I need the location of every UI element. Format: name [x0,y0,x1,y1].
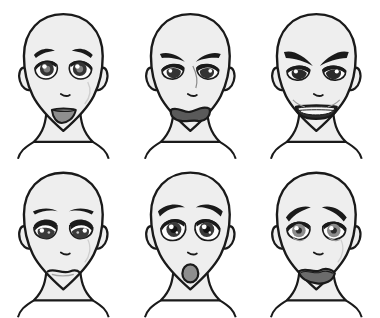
face-grid: Happy / Smiling [0,0,380,318]
face-drawing-sad [0,159,127,318]
face-cell-upset[interactable]: Upset / Grimacing [127,0,254,159]
shoulder-lines [271,142,362,159]
face-drawing-angry [253,0,380,159]
face-cell-sad[interactable]: Sad / Downcast [0,159,127,318]
shoulder-lines [271,300,362,317]
face-drawing-surprised [127,159,254,318]
shoulder-lines [145,142,236,159]
face-cell-surprised[interactable]: Surprised / Shocked [127,159,254,318]
face-drawing-upset [127,0,254,159]
eye-right [323,65,346,80]
expression-sheet: Anime Facial Expression Reference Sheet … [0,0,380,318]
face-drawing-worried [253,159,380,318]
mouth-open-o [182,264,198,282]
eye-left [287,65,310,80]
face-cell-happy[interactable]: Happy / Smiling [0,0,127,159]
face-cell-angry[interactable]: Angry / Gritted Teeth [253,0,380,159]
face-drawing-happy [0,0,127,159]
mouth-gritted-teeth [296,105,337,118]
shoulder-lines [145,300,236,317]
shoulder-lines [18,300,109,317]
shoulder-lines [18,142,109,159]
face-cell-worried[interactable]: Worried / Distressed [253,159,380,318]
eye-left [34,220,57,239]
eye-right [70,220,93,239]
